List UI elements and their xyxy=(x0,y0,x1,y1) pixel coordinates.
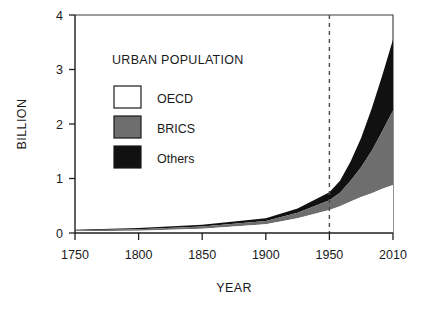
legend-title: URBAN POPULATION xyxy=(112,53,244,67)
chart-figure: 01234 175018001850190019502010 BILLION Y… xyxy=(0,0,425,309)
y-tick-label-4: 4 xyxy=(56,9,63,23)
urban-population-area-chart: 01234 175018001850190019502010 BILLION Y… xyxy=(0,0,425,309)
y-tick-label-1: 1 xyxy=(56,172,63,186)
y-tick-label-2: 2 xyxy=(56,118,63,132)
x-tick-label-2010: 2010 xyxy=(379,248,407,262)
x-tick-label-1850: 1850 xyxy=(188,248,216,262)
x-tick-label-1900: 1900 xyxy=(252,248,280,262)
legend-label-brics: BRICS xyxy=(157,122,195,136)
legend-label-others: Others xyxy=(157,152,195,166)
x-axis-title: YEAR xyxy=(216,281,252,295)
y-tick-label-3: 3 xyxy=(56,63,63,77)
x-tick-label-1750: 1750 xyxy=(61,248,89,262)
legend-swatch-others-icon xyxy=(114,146,141,168)
y-axis-title: BILLION xyxy=(15,99,29,150)
legend-swatch-brics-icon xyxy=(114,116,141,138)
x-tick-label-1800: 1800 xyxy=(125,248,153,262)
legend-swatch-oecd-icon xyxy=(114,86,141,108)
legend-label-oecd: OECD xyxy=(157,92,193,106)
x-tick-label-1950: 1950 xyxy=(315,248,343,262)
y-tick-label-0: 0 xyxy=(56,227,63,241)
